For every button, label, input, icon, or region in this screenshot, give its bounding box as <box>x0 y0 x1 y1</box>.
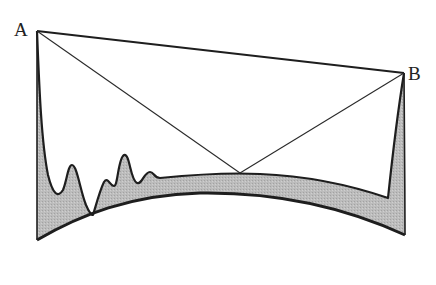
line-a-to-valley <box>37 31 240 173</box>
terrain-right-outer-wall <box>404 73 405 235</box>
point-label-a: A <box>14 20 28 39</box>
line-valley-to-b <box>240 73 404 173</box>
terrain-shaded-region <box>37 31 405 240</box>
line-a-to-b <box>37 31 404 73</box>
diagram-canvas <box>0 0 436 285</box>
point-label-b: B <box>408 64 421 83</box>
